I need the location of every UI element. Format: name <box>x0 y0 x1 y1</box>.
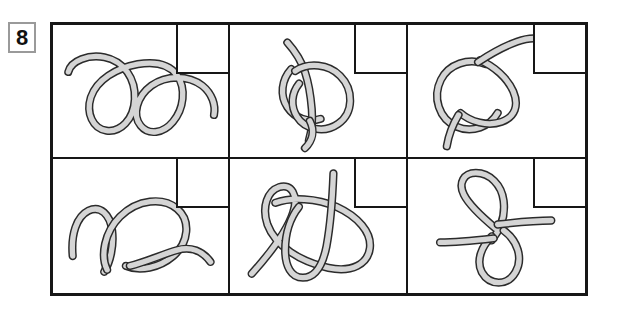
answer-box-top-right[interactable] <box>533 25 585 74</box>
figure-cell-bottom-left[interactable] <box>53 159 230 293</box>
figure-grid <box>53 25 585 293</box>
rope-diagonal-loop <box>252 186 370 273</box>
rope-upper-teardrop <box>461 173 503 240</box>
answer-box-top-middle[interactable] <box>354 25 406 74</box>
test-item-sheet: 8 <box>0 0 620 317</box>
figure-cell-top-right[interactable] <box>408 25 585 159</box>
figure-cell-bottom-right[interactable] <box>408 159 585 293</box>
answer-box-top-left[interactable] <box>176 25 228 74</box>
item-number-label: 8 <box>16 27 28 49</box>
answer-box-bottom-middle[interactable] <box>354 159 406 208</box>
rope-tail-upper-right <box>478 38 539 62</box>
rope-cross-strand <box>460 60 515 124</box>
answer-box-bottom-right[interactable] <box>533 159 585 208</box>
answer-box-bottom-left[interactable] <box>176 159 228 208</box>
item-number-badge: 8 <box>8 22 36 53</box>
rope-tail-left <box>440 238 494 242</box>
figure-cell-top-left[interactable] <box>53 25 230 159</box>
figure-cell-top-middle[interactable] <box>230 25 407 159</box>
figure-cell-bottom-middle[interactable] <box>230 159 407 293</box>
figure-grid-frame <box>50 22 588 296</box>
rope-tail-right <box>497 221 551 225</box>
